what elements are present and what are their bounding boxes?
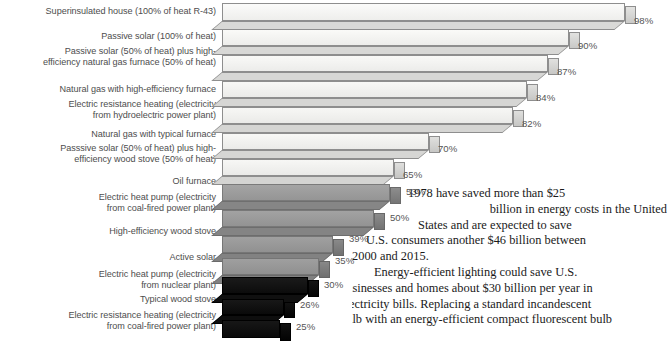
body-line: 2000 and 2015.	[352, 249, 667, 265]
value-label-65: 65%	[403, 169, 422, 180]
value-label-87: 87%	[557, 66, 576, 77]
bar-shelf	[211, 46, 569, 55]
bar-passive-solar-100	[222, 29, 569, 46]
body-line-text: 2000 and 2015.	[352, 249, 429, 263]
bar-heat-pump-nuclear	[222, 277, 308, 294]
body-line-text: businesses and homes about $30 billion p…	[352, 281, 593, 297]
bar-electric-resistance-coal	[222, 320, 280, 338]
bar-passive-solar-plus-wood	[222, 159, 394, 176]
bar-face	[222, 133, 429, 150]
value-label-98: 98%	[634, 15, 653, 26]
bar-natural-gas-typical	[222, 133, 429, 150]
body-line-text: bulb with an energy-efficient compact fl…	[352, 312, 612, 326]
article-body-text: 1978 have saved more than $25 billion in…	[352, 186, 667, 338]
bar-cap	[284, 302, 295, 318]
body-line: 1978 have saved more than $25	[352, 186, 667, 202]
bar-cap	[280, 323, 291, 341]
value-label-90: 90%	[578, 40, 597, 51]
body-line-text: States and are expected to save	[418, 218, 572, 234]
bar-active-solar	[222, 258, 319, 275]
body-line: businesses and homes about $30 billion p…	[352, 281, 667, 297]
bar-face	[222, 29, 569, 46]
bar-face	[222, 3, 625, 21]
body-line: electricity bills. Replacing a standard …	[352, 297, 667, 313]
bar-cap	[333, 239, 344, 256]
bar-high-eff-wood-stove	[222, 236, 333, 253]
body-line-text: billion in energy costs in the United	[490, 202, 667, 216]
bar-cap	[319, 261, 330, 278]
bar-natural-gas-high-eff	[222, 81, 527, 98]
bar-face	[222, 320, 280, 338]
body-line: U.S. consumers another $46 billion betwe…	[352, 233, 667, 249]
bar-typical-wood-stove	[222, 299, 284, 315]
body-line-text: U.S. consumers another $46 billion betwe…	[366, 233, 586, 249]
body-line: Energy-efficient lighting could save U.S…	[352, 265, 667, 281]
body-line: bulb with an energy-efficient compact fl…	[352, 312, 667, 328]
bar-face	[222, 258, 319, 275]
bar-face	[222, 299, 284, 315]
bar-shelf	[211, 150, 429, 159]
value-label-82: 82%	[522, 118, 541, 129]
body-line-text: Energy-efficient lighting could save U.S…	[374, 265, 577, 281]
value-label-70: 70%	[438, 143, 457, 154]
body-line: billion in energy costs in the United	[352, 202, 667, 218]
bar-shelf	[211, 72, 548, 81]
bar-face	[222, 107, 513, 124]
bar-passive-solar-plus-gas	[222, 55, 548, 72]
value-label-25: 25%	[296, 321, 315, 332]
body-line: States and are expected to save	[352, 218, 667, 234]
body-line-text: electricity bills. Replacing a standard …	[352, 297, 591, 313]
bar-shelf	[211, 124, 513, 133]
bar-face	[222, 55, 548, 72]
bar-electric-resistance-hydro	[222, 107, 513, 124]
bar-superinsulated-house	[222, 3, 625, 21]
value-label-26: 26%	[300, 299, 319, 310]
bar-face	[222, 81, 527, 98]
bar-face	[222, 236, 333, 253]
bar-face	[222, 159, 394, 176]
value-label-84: 84%	[536, 92, 555, 103]
value-label-30: 30%	[324, 279, 343, 290]
bar-cap	[308, 280, 319, 297]
body-line-text: 1978 have saved more than $25	[408, 186, 565, 202]
bar-face	[222, 277, 308, 294]
bar-shelf	[211, 98, 527, 107]
